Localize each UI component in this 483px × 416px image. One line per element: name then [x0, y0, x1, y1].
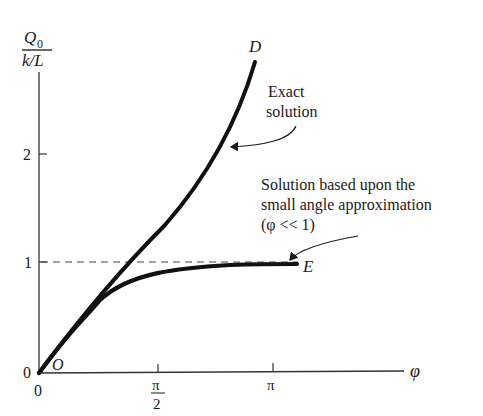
annotation-arrow-exact	[231, 126, 296, 147]
svg-text:solution: solution	[266, 103, 318, 120]
x-axis	[39, 371, 404, 373]
annotation-approximation: Solution based upon the small angle appr…	[261, 176, 432, 260]
x-axis-label: φ	[410, 361, 420, 381]
y-tick-label-1: 1	[24, 254, 32, 271]
y-label-numerator: Q	[24, 28, 36, 47]
series-small-angle-approximation	[39, 264, 297, 373]
x-tick-label-pi-over-2: π 2	[151, 377, 165, 412]
svg-text:Exact: Exact	[268, 83, 305, 100]
series-exact-solution	[39, 62, 255, 373]
y-label-denominator: k/L	[22, 51, 44, 70]
y-tick-label-2: 2	[23, 146, 31, 163]
annotation-arrow-approx	[290, 236, 358, 260]
svg-text:Solution based upon the: Solution based upon the	[261, 176, 415, 194]
y-axis-label: Q 0 k/L	[22, 28, 52, 70]
svg-text:small angle approximation: small angle approximation	[261, 196, 432, 214]
point-label-D: D	[248, 37, 262, 56]
point-label-O: O	[52, 356, 64, 373]
svg-text:π: π	[152, 377, 160, 393]
x-tick-label-0: 0	[34, 382, 42, 399]
svg-text:2: 2	[153, 396, 161, 412]
x-tick-label-pi: π	[267, 377, 275, 393]
point-label-E: E	[302, 257, 314, 276]
y-label-subscript: 0	[37, 37, 43, 51]
y-tick-label-0: 0	[23, 364, 31, 381]
svg-text:(φ << 1): (φ << 1)	[261, 216, 315, 234]
chart: Q 0 k/L 2 1 0 0 π 2 π φ O D E Exact solu…	[0, 0, 483, 416]
